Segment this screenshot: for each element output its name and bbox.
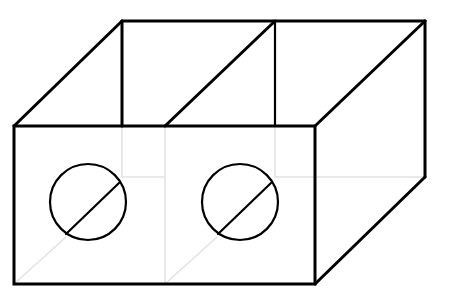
hidden-lines [14, 126, 425, 284]
hole-right [202, 164, 278, 240]
box-diagram [0, 0, 459, 301]
hole-left [50, 164, 126, 240]
box-top-edges [14, 21, 425, 284]
